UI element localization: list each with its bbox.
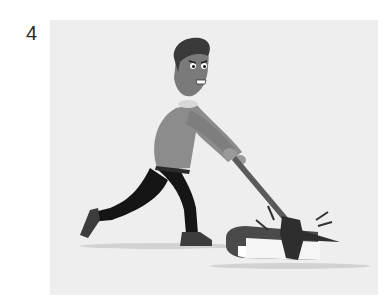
back-shoe-icon [80,208,100,238]
mouth-icon [196,80,206,84]
axe-handle-icon [232,156,290,224]
sweater-icon [154,104,242,170]
front-shoe-icon [180,232,212,246]
front-leg-icon [158,162,198,234]
collar-icon [178,100,198,108]
ground-shadow-icon [80,243,240,249]
illustration-frame [50,20,378,295]
book-shadow-icon [210,263,370,269]
man-chopping-book-illustration [50,20,378,295]
item-number: 4 [26,22,37,45]
back-leg-icon [90,168,168,222]
